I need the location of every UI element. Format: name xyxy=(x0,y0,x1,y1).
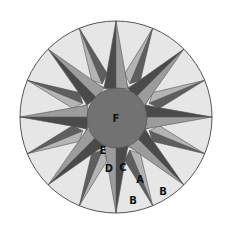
label-d: D xyxy=(105,163,113,174)
label-b1: B xyxy=(129,195,137,206)
label-c: C xyxy=(119,162,126,173)
mariners-compass-diagram: FEDCABB xyxy=(0,0,226,229)
label-a: A xyxy=(136,174,144,185)
label-e: E xyxy=(100,145,107,156)
label-b2: B xyxy=(159,186,167,197)
label-f: F xyxy=(113,113,120,124)
